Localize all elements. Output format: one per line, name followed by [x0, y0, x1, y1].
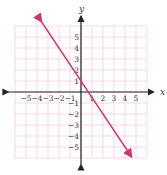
x-axis-label: x	[160, 87, 165, 97]
y-tick-label: 3	[74, 55, 79, 64]
x-tick-label: −5	[20, 94, 31, 103]
coordinate-plane: −5−4−3−2−11234554321−1−2−3−4−5xy	[0, 0, 167, 175]
x-tick-label: −2	[53, 94, 64, 103]
y-axis-label: y	[78, 4, 85, 14]
x-tick-label: 3	[112, 94, 117, 103]
plotted-line	[41, 22, 131, 157]
y-tick-label: 4	[74, 44, 79, 53]
x-tick-label: 4	[123, 94, 128, 103]
y-tick-label: −2	[68, 110, 79, 119]
y-tick-label: 5	[74, 33, 79, 42]
chart-container: −5−4−3−2−11234554321−1−2−3−4−5xy	[0, 0, 167, 175]
x-tick-label: 5	[134, 94, 139, 103]
x-tick-label: 2	[101, 94, 106, 103]
y-tick-label: −3	[68, 121, 79, 130]
y-tick-label: −4	[68, 132, 79, 141]
y-tick-label: −1	[68, 99, 79, 108]
y-tick-label: −5	[68, 143, 79, 152]
x-tick-label: −3	[42, 94, 53, 103]
x-tick-label: −4	[31, 94, 42, 103]
